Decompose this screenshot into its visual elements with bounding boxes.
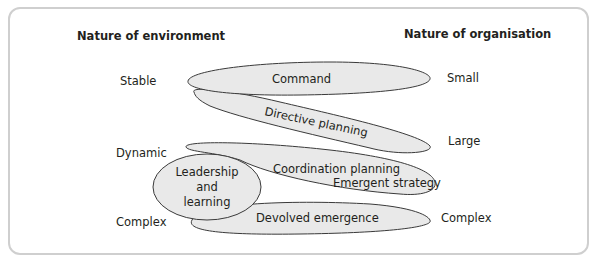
text-command: Command [272, 72, 331, 86]
text-leadership: Leadership [175, 165, 238, 179]
text-emergent-strategy: Emergent strategy [333, 176, 441, 190]
text-learning: learning [184, 195, 231, 209]
text-coordination-planning: Coordination planning [273, 162, 400, 176]
diagram-shapes: Command Directive planning Coordination … [0, 0, 599, 266]
text-devolved-emergence: Devolved emergence [256, 211, 379, 225]
text-and: and [196, 180, 218, 194]
